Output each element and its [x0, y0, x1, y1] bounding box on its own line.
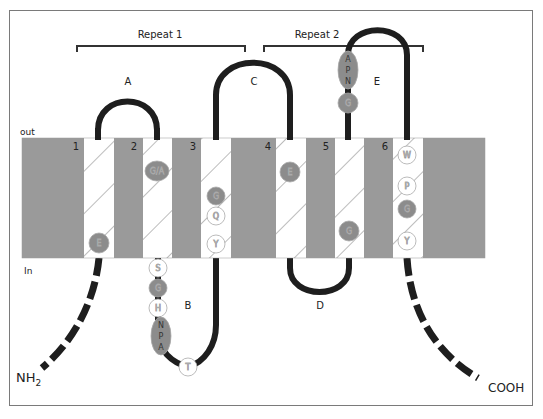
loop-c [216, 63, 290, 140]
residue-q-h3: Q [207, 207, 225, 225]
helix-gray-1-2 [114, 138, 143, 258]
in-label: In [24, 266, 32, 276]
residue-s-loop-b: S [149, 259, 167, 277]
helix-gray-left [22, 138, 84, 258]
residue-g-loop-b: G [149, 279, 167, 297]
repeat-2-label: Repeat 2 [295, 29, 340, 40]
svg-text:W: W [403, 151, 411, 160]
loop-label-c: C [251, 76, 258, 87]
svg-text:Q: Q [213, 212, 219, 221]
loop-a [98, 102, 157, 141]
residue-ga-h2: G/A [145, 161, 169, 181]
helix-gray-5-6 [364, 138, 393, 258]
svg-text:A: A [345, 55, 351, 64]
helix-number-4: 4 [265, 141, 271, 152]
svg-text:G: G [346, 227, 352, 236]
n-terminus-tail [42, 258, 99, 368]
svg-text:N: N [345, 77, 351, 86]
svg-text:G/A: G/A [150, 167, 165, 176]
loop-label-b: B [185, 300, 192, 311]
repeat-1-bracket: Repeat 1 [77, 29, 245, 52]
loop-label-a: A [125, 76, 132, 87]
c-terminus-label: COOH [488, 381, 524, 395]
residue-g-h5: G [339, 221, 359, 241]
out-label: out [20, 127, 35, 137]
residue-g-loop-e: G [338, 93, 358, 113]
svg-text:T: T [185, 363, 191, 372]
helix-gray-2-3 [172, 138, 201, 258]
residue-y-h6: Y [398, 232, 416, 250]
helix-gray-right [423, 138, 485, 258]
svg-text:G: G [404, 205, 410, 214]
helix-gray-4-5 [306, 138, 335, 258]
loop-d [290, 258, 349, 292]
loop-label-d: D [316, 300, 324, 311]
svg-text:Y: Y [404, 237, 410, 246]
svg-text:E: E [287, 168, 292, 177]
svg-text:P: P [346, 66, 351, 75]
residue-t-loop-b: T [179, 358, 197, 376]
motif-apn: A P N [338, 51, 358, 89]
svg-text:H: H [155, 304, 161, 313]
residue-g-h3: G [207, 187, 225, 205]
svg-text:S: S [155, 264, 160, 273]
svg-text:G: G [345, 99, 351, 108]
svg-text:N: N [158, 321, 164, 330]
residue-w-h6: W [398, 146, 416, 164]
residue-h-loop-b: H [149, 299, 167, 317]
repeat-1-label: Repeat 1 [138, 29, 183, 40]
loop-label-e: E [374, 76, 380, 87]
svg-text:P: P [159, 332, 164, 341]
helix-4 [276, 138, 306, 258]
aquaporin-topology-diagram: Repeat 1 Repeat 2 [0, 0, 543, 419]
intracellular-loops [42, 258, 478, 378]
svg-text:G: G [155, 284, 161, 293]
residue-g-h6: G [398, 200, 416, 218]
svg-text:P: P [405, 182, 410, 191]
c-terminus-tail [407, 258, 478, 378]
residue-p-h6: P [398, 177, 416, 195]
svg-text:E: E [96, 239, 101, 248]
helix-number-2: 2 [131, 141, 137, 152]
n-terminus-label: NH2 [16, 370, 41, 388]
helix-number-3: 3 [190, 141, 196, 152]
motif-npa: N P A [151, 317, 171, 355]
helix-gray-3-4 [231, 138, 276, 258]
svg-text:Y: Y [213, 240, 219, 249]
helix-number-1: 1 [73, 141, 79, 152]
svg-text:A: A [158, 343, 164, 352]
helix-number-6: 6 [382, 141, 388, 152]
residue-e-h1: E [89, 233, 109, 253]
helix-number-5: 5 [323, 141, 329, 152]
residue-y-h3: Y [207, 235, 225, 253]
svg-text:G: G [213, 192, 219, 201]
residue-e-h4: E [280, 162, 300, 182]
helix-2 [143, 138, 172, 258]
